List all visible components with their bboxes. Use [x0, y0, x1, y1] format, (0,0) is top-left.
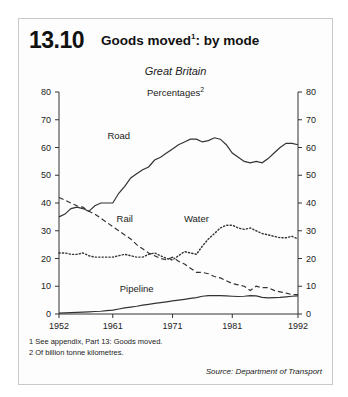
series-label-road: Road	[107, 130, 130, 141]
figure-panel: 13.10 Goods moved1: by mode Great Britai…	[18, 18, 333, 385]
y-tick-label: 70	[306, 115, 316, 125]
series-label-water: Water	[184, 213, 209, 224]
y-tick-label: 50	[306, 170, 316, 180]
y-tick-label: 20	[306, 254, 316, 264]
y-tick-label: 0	[306, 309, 311, 319]
y-tick-label: 80	[41, 87, 51, 97]
x-tick-label: 1961	[103, 321, 123, 331]
y-tick-label: 40	[306, 198, 316, 208]
series-label-rail: Rail	[117, 213, 133, 224]
x-tick-label: 1992	[288, 321, 308, 331]
series-line-water	[59, 225, 298, 260]
series-line-rail	[59, 197, 298, 294]
x-tick-label: 1971	[163, 321, 183, 331]
footnote-item: 2 Of billion tonne kilometres.	[29, 348, 162, 359]
series-label-pipeline: Pipeline	[120, 283, 154, 294]
y-tick-label: 10	[306, 281, 316, 291]
y-tick-label: 80	[306, 87, 316, 97]
source-note: Source: Department of Transport	[206, 367, 322, 376]
x-tick-label: 1981	[222, 321, 242, 331]
y-tick-label: 20	[41, 254, 51, 264]
y-tick-label: 40	[41, 198, 51, 208]
y-tick-label: 0	[46, 309, 51, 319]
chart-svg: 0010102020303040405050606070708080195219…	[19, 19, 334, 386]
plot-area: 0010102020303040405050606070708080195219…	[19, 19, 334, 386]
axis-frame	[59, 92, 298, 314]
y-tick-label: 10	[41, 281, 51, 291]
y-tick-label: 60	[41, 143, 51, 153]
y-tick-label: 60	[306, 143, 316, 153]
footnote-item: 1 See appendix, Part 13: Goods moved.	[29, 337, 162, 348]
y-tick-label: 30	[306, 226, 316, 236]
y-tick-label: 50	[41, 170, 51, 180]
series-line-road	[59, 138, 298, 217]
y-tick-label: 30	[41, 226, 51, 236]
x-tick-label: 1952	[49, 321, 69, 331]
footnotes: 1 See appendix, Part 13: Goods moved. 2 …	[29, 337, 162, 359]
series-line-pipeline	[59, 296, 298, 313]
y-tick-label: 70	[41, 115, 51, 125]
